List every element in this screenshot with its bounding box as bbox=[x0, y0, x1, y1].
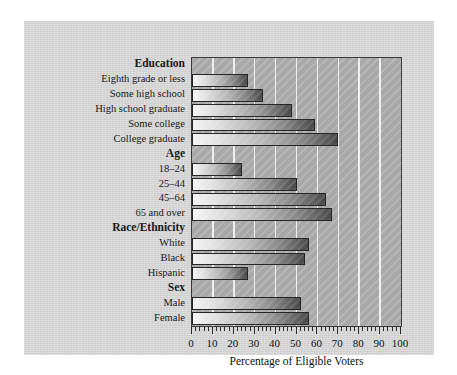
bar-row bbox=[192, 296, 401, 311]
bar bbox=[192, 74, 248, 87]
tick-label-100: 100 bbox=[392, 337, 409, 349]
tick-label-10: 10 bbox=[206, 337, 217, 349]
bar bbox=[192, 178, 297, 191]
group-header-row bbox=[192, 281, 401, 296]
bar bbox=[192, 238, 309, 251]
minor-tick-74 bbox=[346, 327, 347, 331]
category-label-college-graduate: College graduate bbox=[114, 133, 185, 144]
bar-row bbox=[192, 311, 401, 326]
major-tick-70 bbox=[337, 327, 338, 334]
major-tick-20 bbox=[233, 327, 234, 334]
major-tick-40 bbox=[275, 327, 276, 334]
minor-tick-72 bbox=[341, 327, 342, 331]
bar-hatch bbox=[193, 239, 308, 250]
bar-row bbox=[192, 266, 401, 281]
bar-rows bbox=[192, 58, 401, 326]
minor-tick-66 bbox=[329, 327, 330, 331]
bar bbox=[192, 208, 332, 221]
minor-tick-2 bbox=[195, 327, 196, 331]
category-label-hispanic: Hispanic bbox=[148, 267, 185, 278]
major-tick-30 bbox=[254, 327, 255, 334]
bar-hatch bbox=[193, 134, 337, 145]
minor-tick-62 bbox=[321, 327, 322, 331]
major-tick-0 bbox=[191, 327, 192, 334]
category-label-65-and-over: 65 and over bbox=[135, 207, 185, 218]
minor-tick-98 bbox=[396, 327, 397, 331]
category-label-18-24: 18–24 bbox=[159, 163, 185, 174]
minor-tick-36 bbox=[266, 327, 267, 331]
tick-label-50: 50 bbox=[290, 337, 301, 349]
minor-tick-84 bbox=[367, 327, 368, 331]
bar bbox=[192, 163, 242, 176]
bar-hatch bbox=[193, 298, 300, 309]
minor-tick-28 bbox=[250, 327, 251, 331]
bar-hatch bbox=[193, 120, 314, 131]
bar-row bbox=[192, 88, 401, 103]
tick-label-20: 20 bbox=[227, 337, 238, 349]
bar bbox=[192, 104, 292, 117]
minor-tick-92 bbox=[383, 327, 384, 331]
bar-hatch bbox=[193, 105, 291, 116]
group-header-row bbox=[192, 58, 401, 73]
bar-hatch bbox=[193, 268, 247, 279]
category-label-female: Female bbox=[154, 312, 185, 323]
minor-tick-38 bbox=[270, 327, 271, 331]
major-tick-90 bbox=[379, 327, 380, 334]
category-labels: EducationEighth grade or lessSome high s… bbox=[48, 57, 188, 325]
category-label-some-college: Some college bbox=[128, 118, 185, 129]
bar-row bbox=[192, 177, 401, 192]
minor-tick-56 bbox=[308, 327, 309, 331]
bar-hatch bbox=[193, 254, 304, 265]
minor-tick-86 bbox=[371, 327, 372, 331]
minor-tick-12 bbox=[216, 327, 217, 331]
x-axis-tick-labels: 0102030405060708090100 bbox=[191, 337, 402, 351]
bar-row bbox=[192, 132, 401, 147]
minor-tick-64 bbox=[325, 327, 326, 331]
minor-tick-16 bbox=[224, 327, 225, 331]
x-axis-title: Percentage of Eligible Voters bbox=[191, 355, 402, 367]
tick-label-30: 30 bbox=[248, 337, 259, 349]
bar-row bbox=[192, 252, 401, 267]
bar-row bbox=[192, 103, 401, 118]
bar bbox=[192, 312, 309, 325]
group-header-row bbox=[192, 147, 401, 162]
major-tick-50 bbox=[296, 327, 297, 334]
category-label-high-school-graduate: High school graduate bbox=[95, 103, 185, 114]
minor-tick-48 bbox=[291, 327, 292, 331]
bar-row bbox=[192, 162, 401, 177]
minor-tick-68 bbox=[333, 327, 334, 331]
bar bbox=[192, 89, 263, 102]
minor-tick-8 bbox=[208, 327, 209, 331]
major-tick-100 bbox=[400, 327, 401, 334]
figure: EducationEighth grade or lessSome high s… bbox=[0, 0, 457, 375]
tick-label-40: 40 bbox=[269, 337, 280, 349]
minor-tick-54 bbox=[304, 327, 305, 331]
bar bbox=[192, 297, 301, 310]
bar bbox=[192, 133, 338, 146]
bar-hatch bbox=[193, 209, 331, 220]
minor-tick-6 bbox=[204, 327, 205, 331]
bar-hatch bbox=[193, 179, 296, 190]
bar bbox=[192, 267, 248, 280]
major-tick-80 bbox=[358, 327, 359, 334]
category-label-black: Black bbox=[161, 252, 186, 263]
bar-hatch bbox=[193, 194, 325, 205]
minor-tick-18 bbox=[229, 327, 230, 331]
chart-panel: EducationEighth grade or lessSome high s… bbox=[24, 21, 434, 355]
tick-label-70: 70 bbox=[332, 337, 343, 349]
tick-label-0: 0 bbox=[188, 337, 194, 349]
minor-tick-76 bbox=[350, 327, 351, 331]
bar-hatch bbox=[193, 313, 308, 324]
bar bbox=[192, 253, 305, 266]
minor-tick-78 bbox=[354, 327, 355, 331]
group-header-row bbox=[192, 222, 401, 237]
category-label-eighth-grade-or-less: Eighth grade or less bbox=[101, 73, 185, 84]
minor-tick-82 bbox=[362, 327, 363, 331]
minor-tick-88 bbox=[375, 327, 376, 331]
bar-row bbox=[192, 73, 401, 88]
minor-tick-44 bbox=[283, 327, 284, 331]
group-label-race-ethnicity: Race/Ethnicity bbox=[112, 222, 185, 233]
tick-label-80: 80 bbox=[353, 337, 364, 349]
bar-row bbox=[192, 237, 401, 252]
bar-hatch bbox=[193, 90, 262, 101]
